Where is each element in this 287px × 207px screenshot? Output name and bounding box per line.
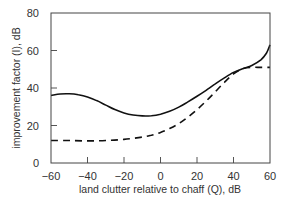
y-tick-label: 20 [27,120,39,132]
y-tick-label: 0 [33,157,39,169]
y-tick-label: 80 [27,7,39,19]
x-tick-label: −20 [115,170,134,182]
x-axis-title: land clutter relative to chaff (Q), dB [79,183,241,195]
x-tick-label: 40 [227,170,239,182]
x-tick-label: 0 [157,170,163,182]
x-tick-label: 60 [264,170,276,182]
y-tick-label: 60 [27,45,39,57]
plot-frame [51,13,270,163]
y-tick-label: 40 [27,82,39,94]
chart: −60−40−200204060020406080 land clutter r… [0,0,287,207]
series-solid-line [51,45,270,116]
series-lines [51,45,270,141]
x-tick-label: 20 [191,170,203,182]
series-dashed-line [51,67,270,141]
axis-ticks [51,51,234,164]
y-axis-title: improvement factor (I), dB [10,27,22,148]
x-tick-label: −40 [78,170,97,182]
x-tick-label: −60 [42,170,61,182]
